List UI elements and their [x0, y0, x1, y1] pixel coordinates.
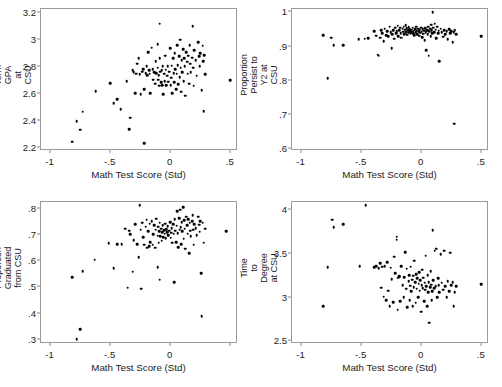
- data-point: [191, 214, 194, 217]
- data-point: [163, 80, 166, 83]
- data-point: [197, 215, 200, 218]
- data-point: [194, 59, 197, 62]
- data-point: [198, 231, 201, 234]
- data-point: [176, 64, 179, 67]
- data-point: [131, 270, 134, 273]
- data-point: [441, 31, 444, 34]
- x-axis-tick-mark: [420, 343, 421, 346]
- data-point: [419, 289, 422, 292]
- x-axis-tick-mark: [360, 343, 361, 346]
- data-point: [166, 225, 169, 228]
- data-point: [400, 265, 403, 268]
- data-point: [406, 306, 409, 309]
- data-point: [446, 280, 449, 283]
- x-axis-tick-mark: [480, 343, 481, 346]
- data-point: [171, 241, 174, 244]
- y-axis-tick-label: 2.5: [274, 335, 287, 346]
- data-point: [448, 290, 451, 293]
- x-axis-tick-label: -.5: [104, 349, 115, 360]
- x-axis-tick-mark: [169, 343, 170, 346]
- x-axis-tick-mark: [49, 150, 50, 153]
- data-point: [332, 44, 335, 47]
- data-point: [433, 22, 436, 25]
- data-point: [438, 284, 441, 287]
- data-point: [398, 275, 401, 278]
- data-point: [386, 261, 389, 264]
- data-point: [195, 234, 198, 237]
- data-point: [151, 68, 154, 71]
- y-axis-tick-label: 4: [282, 203, 287, 214]
- data-point: [443, 250, 446, 253]
- data-point: [438, 291, 441, 294]
- data-point: [169, 84, 172, 87]
- y-axis-tick-label: .4: [28, 307, 36, 318]
- panel-2-x-axis: Math Test Score (Std) -1-.50.5: [291, 150, 488, 190]
- data-point: [189, 62, 192, 65]
- panel-4-x-axis-title: Math Test Score (Std): [291, 362, 488, 373]
- data-point: [392, 301, 395, 304]
- data-point: [177, 83, 180, 86]
- data-point: [169, 47, 172, 50]
- x-axis-tick-label: 0: [418, 349, 423, 360]
- data-point: [400, 36, 403, 39]
- data-point: [414, 301, 417, 304]
- panel-1-plot-area: [40, 8, 237, 150]
- data-point: [147, 230, 150, 233]
- y-axis-tick-label: 2.8: [23, 61, 36, 72]
- data-point: [442, 35, 445, 38]
- data-point: [322, 34, 325, 37]
- data-point: [188, 82, 191, 85]
- data-point: [430, 299, 433, 302]
- panel-3-plot-area: [40, 201, 237, 343]
- data-point: [357, 38, 360, 41]
- data-point: [439, 253, 442, 256]
- data-point: [430, 283, 433, 286]
- data-point: [165, 237, 168, 240]
- data-point: [363, 37, 366, 40]
- data-point: [176, 232, 179, 235]
- data-point: [183, 219, 186, 222]
- y-axis-tick-label: .3: [28, 334, 36, 345]
- data-point: [173, 81, 176, 84]
- panel-first-term-gpa: First Term GPA at CSU 3.232.82.62.42.2 M…: [0, 0, 251, 193]
- data-point: [136, 62, 139, 65]
- data-point: [175, 72, 178, 75]
- data-point: [136, 243, 139, 246]
- data-point: [116, 243, 119, 246]
- panel-time-to-degree: Time to Degree at CSU 43.532.5 Math Test…: [251, 193, 502, 386]
- data-point: [380, 286, 383, 289]
- data-point: [79, 128, 82, 131]
- x-axis-tick-label: -1: [45, 156, 54, 167]
- data-point: [432, 229, 435, 232]
- data-point: [332, 226, 335, 229]
- x-axis-tick-mark: [480, 150, 481, 153]
- y-axis-tick-label: 2.4: [23, 115, 36, 126]
- data-point: [75, 338, 78, 341]
- data-point: [175, 241, 178, 244]
- data-point: [407, 280, 410, 283]
- data-point: [191, 56, 194, 59]
- data-point: [403, 276, 406, 279]
- data-point: [175, 88, 178, 91]
- data-point: [413, 259, 416, 262]
- y-axis-tick-label: 3: [31, 34, 36, 45]
- data-point: [393, 256, 396, 259]
- data-point: [203, 110, 206, 113]
- data-point: [444, 285, 447, 288]
- data-point: [112, 102, 115, 105]
- data-point: [383, 265, 386, 268]
- data-point: [397, 308, 400, 311]
- data-point: [148, 69, 151, 72]
- data-point: [134, 92, 137, 95]
- data-point: [442, 288, 445, 291]
- data-point: [201, 221, 204, 224]
- data-point: [192, 243, 195, 246]
- data-point: [109, 82, 112, 85]
- data-point: [180, 90, 183, 93]
- data-point: [200, 272, 203, 275]
- data-point: [193, 223, 196, 226]
- data-point: [155, 218, 158, 221]
- data-point: [94, 90, 97, 93]
- data-point: [166, 65, 169, 68]
- data-point: [146, 65, 149, 68]
